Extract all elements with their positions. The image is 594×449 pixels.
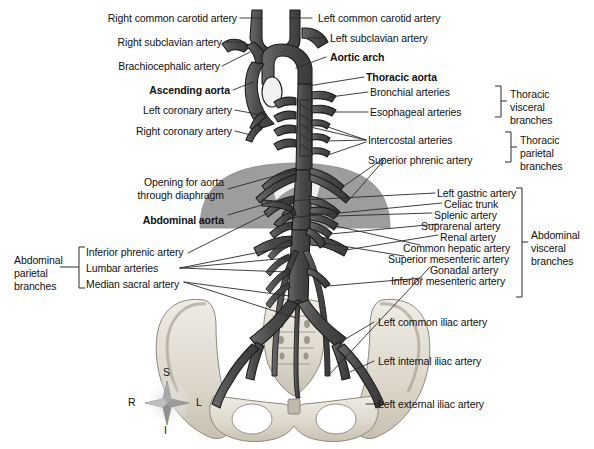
label-left-external-iliac-artery: Left external iliac artery (378, 398, 484, 411)
label-aortic-arch: Aortic arch (330, 51, 384, 64)
label-left-common-iliac-artery: Left common iliac artery (378, 316, 487, 329)
label-thoracic-aorta: Thoracic aorta (366, 71, 437, 84)
label-abdominal-visceral-branches: Abdominal visceral branches (531, 229, 580, 268)
anatomy-figure-aorta: Right common carotid artery Right subcla… (0, 0, 594, 449)
label-intercostal-arteries: Intercostal arteries (368, 134, 452, 147)
label-right-common-carotid-artery: Right common carotid artery (85, 12, 237, 25)
compass-label-right: R (128, 396, 136, 408)
label-inferior-mesenteric-artery: Inferior mesenteric artery (391, 275, 505, 288)
label-abdominal-parietal-branches: Abdominal parietal branches (14, 254, 63, 293)
label-left-common-carotid-artery: Left common carotid artery (318, 12, 440, 25)
compass-label-inferior: I (164, 424, 167, 436)
label-abdominal-aorta: Abdominal aorta (92, 214, 224, 227)
label-median-sacral-artery: Median sacral artery (86, 278, 179, 291)
label-thoracic-visceral-branches: Thoracic visceral branches (510, 88, 552, 127)
compass-label-superior: S (163, 366, 170, 378)
label-thoracic-parietal-branches: Thoracic parietal branches (520, 134, 562, 173)
label-right-coronary-artery: Right coronary artery (130, 125, 232, 138)
compass-label-left: L (196, 396, 202, 408)
label-superior-phrenic-artery: Superior phrenic artery (368, 154, 473, 167)
aorta-illustration (0, 0, 594, 449)
label-esophageal-arteries: Esophageal arteries (370, 106, 462, 119)
label-left-internal-iliac-artery: Left internal iliac artery (378, 355, 481, 368)
label-brachiocephalic-artery: Brachiocephalic artery (100, 60, 220, 73)
label-bronchial-arteries: Bronchial arteries (370, 86, 450, 99)
label-opening-for-aorta-through-diaphragm: Opening for aorta through diaphragm (90, 176, 224, 201)
orientation-compass-icon (143, 379, 191, 427)
label-right-subclavian-artery: Right subclavian artery (100, 36, 222, 49)
label-ascending-aorta: Ascending aorta (130, 84, 230, 97)
label-lumbar-arteries: Lumbar arteries (86, 262, 158, 275)
label-left-coronary-artery: Left coronary artery (130, 104, 232, 117)
label-inferior-phrenic-artery: Inferior phrenic artery (86, 246, 184, 259)
label-left-subclavian-artery: Left subclavian artery (330, 32, 428, 45)
